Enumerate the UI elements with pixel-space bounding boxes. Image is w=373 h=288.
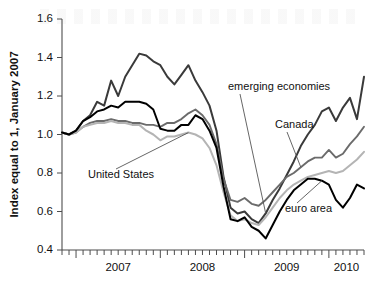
x-tick-label: 2007 <box>105 261 131 273</box>
x-tick-label: 2008 <box>190 261 216 273</box>
annotation-united-states: United States <box>88 168 155 180</box>
annotation-canada: Canada <box>275 118 314 130</box>
leader-line-united-states <box>116 133 188 169</box>
annotation-emerging-economies: emerging economies <box>228 80 331 92</box>
chart-container: 0.40.60.81.01.21.41.62007200820092010Ind… <box>0 0 373 288</box>
y-axis-title: Index equal to 1, January 2007 <box>8 51 20 217</box>
y-tick-label: 1.2 <box>37 89 53 101</box>
y-tick-label: 0.4 <box>37 243 54 255</box>
y-tick-label: 0.6 <box>37 205 53 217</box>
line-chart: 0.40.60.81.01.21.41.62007200820092010Ind… <box>0 0 373 288</box>
y-tick-label: 0.8 <box>37 166 53 178</box>
x-tick-label: 2009 <box>274 261 300 273</box>
axes: 0.40.60.81.01.21.41.62007200820092010Ind… <box>8 12 364 273</box>
leader-line-emerging-economies <box>240 94 266 213</box>
y-tick-label: 1.6 <box>37 12 53 24</box>
y-tick-label: 1.4 <box>37 51 54 63</box>
y-tick-label: 1.0 <box>37 128 53 140</box>
x-tick-label: 2010 <box>334 261 360 273</box>
annotation-euro-area: euro area <box>285 202 333 214</box>
annotation-layer: emerging economiesCanadaUnited Stateseur… <box>88 80 333 214</box>
